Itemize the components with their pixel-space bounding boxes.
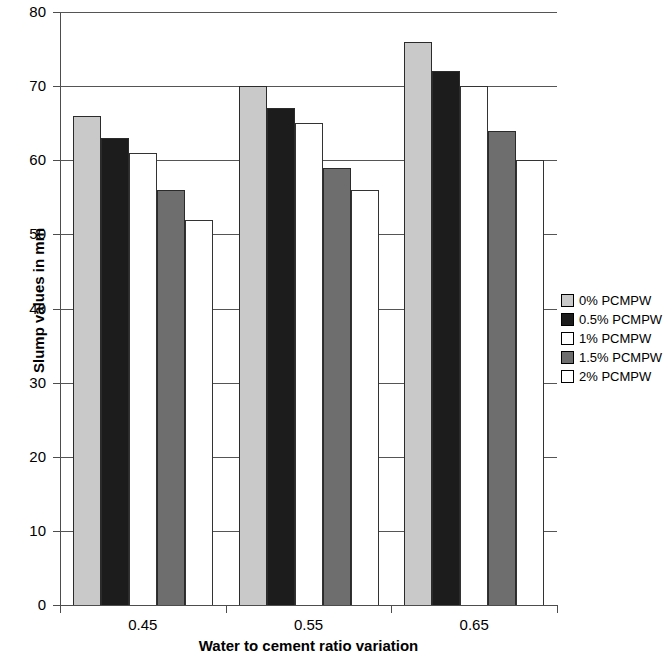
x-axis-title: Water to cement ratio variation <box>60 637 557 654</box>
x-tick-mark <box>226 605 227 613</box>
bar <box>129 153 157 605</box>
x-tick-mark <box>391 605 392 613</box>
bar <box>267 108 295 605</box>
y-tick-mark <box>53 86 60 87</box>
y-tick-mark <box>53 309 60 310</box>
bar <box>460 86 488 605</box>
y-tick-label: 60 <box>0 152 46 167</box>
bar <box>432 71 460 605</box>
y-tick-mark <box>53 234 60 235</box>
y-tick-mark <box>53 12 60 13</box>
legend-item-label: 1.5% PCMPW <box>579 351 662 364</box>
x-tick-label: 0.45 <box>83 616 203 633</box>
legend-item: 1% PCMPW <box>561 329 667 348</box>
x-axis-line <box>60 605 558 606</box>
bar <box>488 131 516 605</box>
legend-swatch-icon <box>561 370 574 383</box>
bar <box>185 220 213 605</box>
y-tick-label: 80 <box>0 4 46 19</box>
plot-area <box>60 12 557 605</box>
legend-swatch-icon <box>561 313 574 326</box>
legend-item: 2% PCMPW <box>561 367 667 386</box>
legend: 0% PCMPW0.5% PCMPW1% PCMPW1.5% PCMPW2% P… <box>561 291 667 386</box>
bar <box>239 86 267 605</box>
bar <box>295 123 323 605</box>
bar <box>323 168 351 605</box>
bar <box>516 160 544 605</box>
y-tick-label: 70 <box>0 78 46 93</box>
legend-swatch-icon <box>561 332 574 345</box>
y-tick-label: 50 <box>0 226 46 241</box>
x-tick-label: 0.55 <box>249 616 369 633</box>
bar <box>351 190 379 605</box>
bar <box>73 116 101 605</box>
legend-swatch-icon <box>561 351 574 364</box>
bar <box>101 138 129 605</box>
legend-swatch-icon <box>561 294 574 307</box>
x-tick-mark <box>557 605 558 613</box>
x-tick-label: 0.65 <box>414 616 534 633</box>
gridline <box>60 12 557 13</box>
legend-item-label: 0.5% PCMPW <box>579 313 662 326</box>
y-tick-label: 30 <box>0 375 46 390</box>
bar <box>404 42 432 605</box>
y-tick-mark <box>53 531 60 532</box>
y-tick-label: 0 <box>0 597 46 612</box>
legend-item-label: 0% PCMPW <box>579 294 651 307</box>
y-tick-mark <box>53 457 60 458</box>
x-tick-mark <box>60 605 61 613</box>
legend-item: 1.5% PCMPW <box>561 348 667 367</box>
y-tick-mark <box>53 605 60 606</box>
legend-item: 0.5% PCMPW <box>561 310 667 329</box>
bar <box>157 190 185 605</box>
legend-item: 0% PCMPW <box>561 291 667 310</box>
y-tick-label: 10 <box>0 523 46 538</box>
bar-chart: Slump values in mm Water to cement ratio… <box>0 0 668 660</box>
y-tick-mark <box>53 160 60 161</box>
legend-item-label: 1% PCMPW <box>579 332 651 345</box>
y-tick-mark <box>53 383 60 384</box>
y-tick-label: 40 <box>0 301 46 316</box>
legend-item-label: 2% PCMPW <box>579 370 651 383</box>
y-tick-label: 20 <box>0 449 46 464</box>
